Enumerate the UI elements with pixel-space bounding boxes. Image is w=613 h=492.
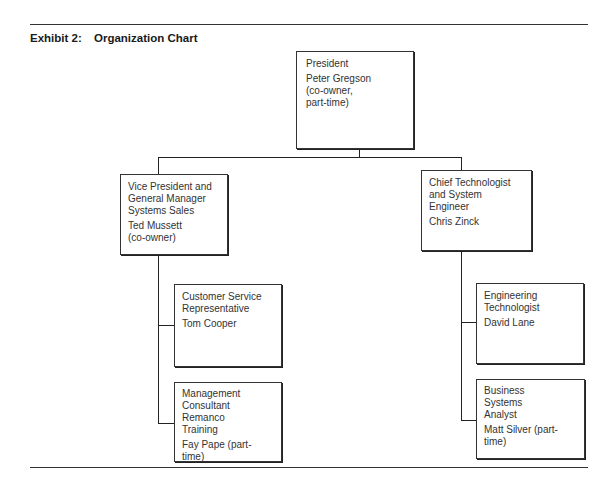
connector-president-down [359, 149, 360, 157]
node-role: Management Consultant Remanco Training [182, 388, 272, 436]
node-role: Engineering Technologist [484, 290, 574, 314]
node-role: Vice President and General Manager Syste… [128, 181, 218, 217]
node-role: Business Systems Analyst [484, 385, 575, 421]
connector-to-et [461, 322, 476, 323]
exhibit-title: Exhibit 2:Organization Chart [30, 32, 198, 44]
node-name: David Lane [484, 317, 574, 329]
top-rule [30, 24, 588, 25]
node-president: President Peter Gregson (co-owner, part-… [296, 51, 414, 149]
connector-to-vp [158, 157, 159, 174]
node-role: President [306, 58, 404, 70]
node-name: Peter Gregson (co-owner, part-time) [306, 73, 404, 109]
node-business-systems-analyst: Business Systems Analyst Matt Silver (pa… [476, 379, 585, 459]
connector-to-csr [158, 325, 174, 326]
node-role: Chief Technologist and System Engineer [429, 177, 522, 213]
node-role: Customer Service Representative [182, 291, 272, 315]
connector-vp-trunk [158, 255, 159, 423]
connector-to-bsa [461, 420, 476, 421]
exhibit-label: Exhibit 2: [30, 32, 94, 44]
chart-title: Organization Chart [94, 32, 198, 44]
connector-top-horizontal [158, 157, 462, 158]
node-customer-service: Customer Service Representative Tom Coop… [174, 284, 282, 367]
node-management-consultant: Management Consultant Remanco Training F… [174, 382, 282, 462]
node-name: Ted Mussett (co-owner) [128, 220, 218, 244]
node-name: Fay Pape (part-time) [182, 439, 272, 463]
connector-cto-trunk [461, 251, 462, 420]
connector-to-cto [461, 157, 462, 170]
node-vice-president: Vice President and General Manager Syste… [120, 174, 228, 255]
node-name: Chris Zinck [429, 216, 522, 228]
node-name: Matt Silver (part-time) [484, 424, 575, 448]
connector-to-mc [158, 423, 174, 424]
bottom-rule [30, 467, 588, 468]
node-chief-technologist: Chief Technologist and System Engineer C… [421, 170, 532, 251]
node-name: Tom Cooper [182, 318, 272, 330]
node-engineering-technologist: Engineering Technologist David Lane [476, 283, 584, 364]
